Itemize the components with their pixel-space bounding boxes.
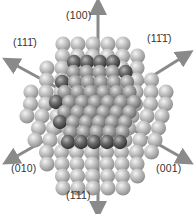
atom-sphere — [115, 180, 130, 195]
atom-sphere — [87, 135, 101, 149]
atom-sphere — [53, 115, 67, 129]
label-010: (010) — [11, 162, 37, 174]
atom-sphere — [39, 156, 54, 171]
label--111: (1̄11) — [66, 189, 91, 201]
atom-sphere — [144, 144, 159, 159]
atom-sphere — [130, 168, 145, 183]
label-100: (100) — [66, 9, 92, 21]
atom-sphere — [100, 135, 114, 149]
label-11-1: (111̄) — [13, 36, 37, 48]
label-1-1-1: (11̄1̄) — [147, 32, 172, 44]
atom-spheres — [19, 36, 173, 195]
atom-sphere — [74, 135, 88, 149]
atom-sphere — [19, 108, 34, 123]
label-001: (001) — [156, 162, 182, 174]
atom-sphere — [61, 135, 75, 149]
atom-sphere — [100, 180, 115, 195]
atom-sphere — [113, 135, 127, 149]
atom-sphere — [27, 132, 42, 147]
